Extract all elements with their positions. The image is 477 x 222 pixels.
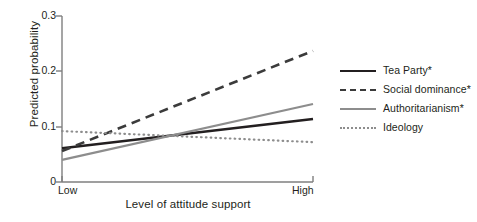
legend-item-authoritarianism[interactable]: Authoritarianism* [340, 98, 477, 117]
legend-swatch-solid-gray-icon [340, 103, 376, 113]
legend-swatch-solid-dark-icon [340, 65, 376, 75]
series-lines [62, 51, 313, 160]
legend-item-social-dominance[interactable]: Social dominance* [340, 79, 477, 98]
series-line-authoritarianism [62, 104, 313, 160]
legend-swatch-dotted-gray-icon [340, 122, 376, 132]
legend-swatch-dashed-dark-icon [340, 84, 376, 94]
figure-container: Predicted probability 0.3 0.2 0.1 0 Low … [0, 0, 477, 222]
legend-item-tea-party[interactable]: Tea Party* [340, 60, 477, 79]
legend-label-tea-party: Tea Party* [383, 64, 432, 76]
legend-label-ideology: Ideology [383, 121, 423, 133]
legend-item-ideology[interactable]: Ideology [340, 117, 477, 136]
legend-label-authoritarianism: Authoritarianism* [383, 102, 464, 114]
legend: Tea Party* Social dominance* Authoritari… [340, 60, 477, 136]
axis-lines [56, 16, 313, 182]
legend-label-social-dominance: Social dominance* [383, 83, 471, 95]
